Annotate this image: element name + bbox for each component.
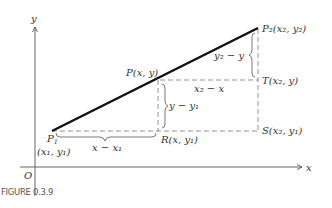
- r-label: R(x, y₁): [160, 134, 198, 145]
- t-label: T(x₂, y): [262, 75, 298, 86]
- diff-x2-minus-x: x₂ − x: [194, 83, 224, 94]
- segment-p1-p2: [52, 28, 258, 131]
- diff-y2-minus-y: y₂ − y: [213, 50, 244, 61]
- figure-caption: FIGURE 0.3.9: [1, 187, 53, 197]
- origin-label: O: [24, 170, 32, 181]
- coordinate-diagram: y x O P1 (x₁, y₁) P(x, y) P₂(x₂, y₂) R(x…: [0, 0, 332, 208]
- x-axis-label: x: [306, 162, 312, 173]
- s-label: S(x₂, y₁): [262, 125, 302, 136]
- p2-label: P₂(x₂, y₂): [261, 23, 306, 34]
- p1-coords: (x₁, y₁): [37, 146, 71, 157]
- y-axis-label: y: [30, 13, 37, 24]
- p-label: P(x, y): [125, 67, 158, 78]
- diff-y-minus-y1: y − y₁: [168, 100, 199, 111]
- diff-x-minus-x1: x − x₁: [92, 142, 122, 153]
